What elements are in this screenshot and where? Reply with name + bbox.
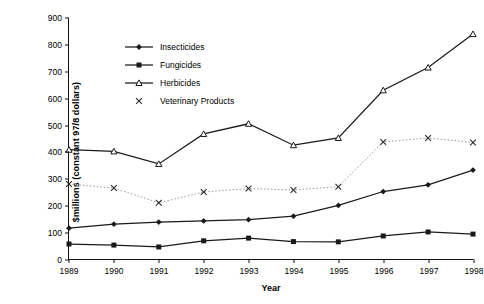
- series-line: [69, 232, 473, 247]
- data-point: [426, 229, 431, 234]
- data-point: [381, 233, 386, 238]
- y-tick-label: 200: [48, 202, 62, 211]
- x-tick-mark: [384, 259, 385, 263]
- data-point: [66, 225, 72, 231]
- y-tick-mark: [65, 152, 69, 153]
- x-tick-label: 1989: [60, 267, 79, 276]
- data-point: [246, 217, 252, 223]
- x-tick-mark: [429, 259, 430, 263]
- x-tick-label: 1995: [330, 267, 349, 276]
- x-tick-label: 1998: [465, 267, 484, 276]
- y-tick-mark: [65, 98, 69, 99]
- data-point: [291, 213, 297, 219]
- x-tick-label: 1993: [240, 267, 259, 276]
- data-point: [246, 236, 251, 241]
- series-veterinary-products: [66, 135, 476, 206]
- data-point: [470, 167, 476, 173]
- data-point: [156, 200, 162, 206]
- data-point: [156, 219, 162, 225]
- legend-item-label: Veterinary Products: [160, 96, 234, 106]
- series-insecticides: [66, 167, 476, 231]
- x-tick-mark: [204, 259, 205, 263]
- legend-item-label: Herbicides: [160, 78, 200, 88]
- y-tick-mark: [65, 71, 69, 72]
- x-tick-label: 1997: [420, 267, 439, 276]
- y-tick-mark: [65, 44, 69, 45]
- legend-item-veterinary-products[interactable]: Veterinary Products: [122, 92, 234, 110]
- x-tick-label: 1992: [195, 267, 214, 276]
- triangle-marker-icon: [122, 77, 156, 89]
- square-marker-icon: [122, 59, 156, 71]
- data-point: [425, 135, 431, 141]
- x-tick-mark: [339, 259, 340, 263]
- diamond-marker-icon: [122, 41, 156, 53]
- legend-item-fungicides[interactable]: Fungicides: [122, 56, 234, 74]
- data-point: [201, 218, 207, 224]
- y-tick-mark: [65, 233, 69, 234]
- data-point: [471, 232, 476, 237]
- legend-item-label: Fungicides: [160, 60, 201, 70]
- x-tick-mark: [69, 259, 70, 263]
- x-axis-title: Year: [69, 283, 473, 293]
- data-point: [380, 189, 386, 195]
- data-point: [67, 242, 72, 247]
- series-line: [69, 138, 473, 203]
- y-tick-mark: [65, 18, 69, 19]
- y-tick-label: 300: [48, 175, 62, 184]
- y-tick-mark: [65, 125, 69, 126]
- y-tick-label: 100: [48, 229, 62, 238]
- x-tick-mark: [474, 259, 475, 263]
- data-point: [291, 239, 296, 244]
- x-tick-label: 1991: [150, 267, 169, 276]
- data-point: [291, 187, 297, 193]
- y-tick-mark: [65, 179, 69, 180]
- x-tick-label: 1996: [375, 267, 394, 276]
- y-tick-label: 400: [48, 148, 62, 157]
- data-point: [336, 239, 341, 244]
- data-point: [66, 181, 72, 187]
- data-point: [425, 182, 431, 188]
- x-tick-mark: [294, 259, 295, 263]
- x-tick-mark: [159, 259, 160, 263]
- data-point: [470, 140, 476, 146]
- series-line: [69, 170, 473, 228]
- x-tick-label: 1990: [105, 267, 124, 276]
- y-tick-label: 900: [48, 14, 62, 23]
- x-tick-mark: [114, 259, 115, 263]
- cross-marker-icon: [122, 95, 156, 107]
- data-point: [335, 184, 341, 190]
- series-fungicides: [67, 229, 476, 249]
- y-tick-mark: [65, 206, 69, 207]
- data-point: [470, 31, 476, 37]
- data-point: [111, 221, 117, 227]
- y-tick-label: 0: [57, 256, 62, 265]
- y-tick-label: 700: [48, 68, 62, 77]
- data-point: [245, 121, 251, 127]
- y-tick-label: 500: [48, 121, 62, 130]
- legend-item-label: Insecticides: [160, 42, 204, 52]
- x-tick-mark: [249, 259, 250, 263]
- y-tick-label: 800: [48, 41, 62, 50]
- data-point: [335, 203, 341, 209]
- x-tick-label: 1994: [285, 267, 304, 276]
- data-point: [201, 238, 206, 243]
- data-point: [380, 87, 386, 93]
- data-point: [156, 244, 161, 249]
- y-tick-label: 600: [48, 94, 62, 103]
- line-chart: $millions (constant 97/8 dollars) 010020…: [0, 0, 484, 304]
- legend-item-herbicides[interactable]: Herbicides: [122, 74, 234, 92]
- data-point: [111, 243, 116, 248]
- legend-item-insecticides[interactable]: Insecticides: [122, 38, 234, 56]
- chart-legend: InsecticidesFungicidesHerbicidesVeterina…: [122, 38, 234, 110]
